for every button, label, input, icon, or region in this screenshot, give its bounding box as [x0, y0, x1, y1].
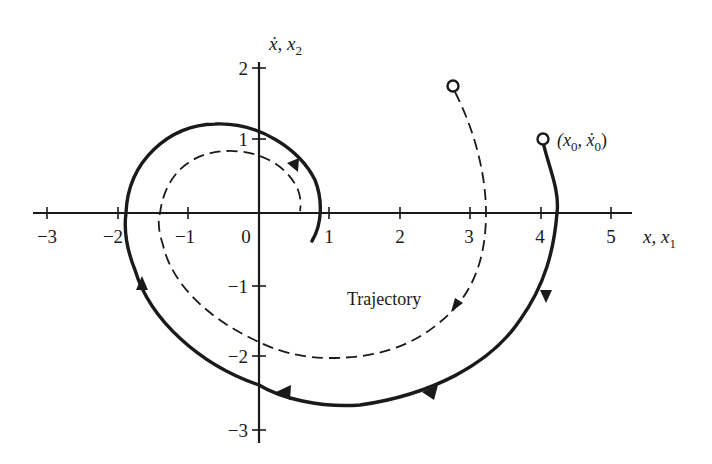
y-tick-label: 2 [239, 58, 249, 79]
initial-point-marker-icon [538, 134, 549, 145]
x-tick-label: −1 [175, 226, 195, 247]
y-tick-label: −3 [228, 420, 248, 441]
x-tick-label: 2 [395, 226, 405, 247]
dashed-start-marker-icon [448, 81, 459, 92]
x-axis-label: x, x1 [642, 226, 676, 251]
x-tick-label: −3 [37, 226, 57, 247]
x-tick-label: −2 [103, 226, 123, 247]
initial-point-label: (x0, ẋ0) [557, 130, 607, 154]
direction-arrow-icon [451, 298, 463, 312]
x-tick-label: 3 [464, 226, 474, 247]
x-tick-label: 5 [606, 226, 616, 247]
dashed-trajectory-curve [159, 92, 486, 358]
trajectory-label: Trajectory [347, 289, 421, 309]
x-tick-label: 4 [535, 226, 545, 247]
y-tick-label: 1 [239, 129, 249, 150]
phase-plane-figure: −3 −2 −1 0 1 2 3 4 5 2 1 −1 −2 −3 ẋ, x2 … [0, 0, 712, 464]
y-tick-label: −1 [228, 276, 248, 297]
y-axis-label: ẋ, x2 [268, 33, 302, 58]
solid-trajectory-curve [125, 124, 557, 406]
direction-arrow-icon [136, 158, 552, 400]
x-tick-label: 0 [241, 226, 251, 247]
x-tick-label: 1 [324, 226, 334, 247]
y-tick-label: −2 [228, 346, 248, 367]
